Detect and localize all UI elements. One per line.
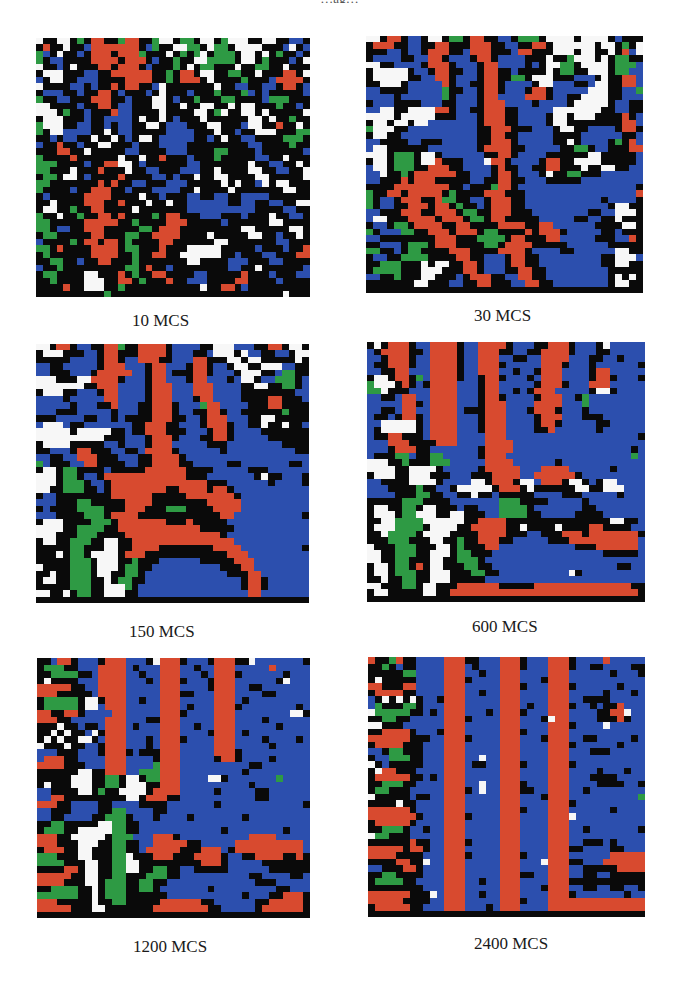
lattice-cell	[401, 287, 408, 293]
lattice-cell	[235, 912, 242, 919]
lattice-cell	[485, 596, 492, 603]
lattice-cell	[471, 596, 478, 603]
lattice-cell	[145, 597, 152, 603]
lattice-cell	[408, 287, 415, 293]
lattice-cell	[112, 912, 119, 919]
lattice-cell	[125, 291, 132, 297]
lattice-cell	[387, 287, 394, 293]
lattice-cell	[581, 287, 588, 293]
lattice-cell	[37, 912, 44, 919]
lattice-cell	[472, 911, 479, 918]
lattice-cell	[534, 596, 541, 603]
lattice-cell	[207, 291, 214, 297]
lattice-cell	[638, 596, 645, 603]
lattice-grid	[37, 658, 310, 918]
lattice-cell	[92, 912, 99, 919]
lattice-cell	[638, 911, 645, 918]
lattice-cell	[416, 596, 423, 603]
lattice-cell	[139, 912, 146, 919]
lattice-cell	[583, 911, 590, 918]
lattice-cell	[477, 287, 484, 293]
lattice-cell	[491, 287, 498, 293]
lattice-cell	[569, 911, 576, 918]
lattice-cell	[562, 911, 569, 918]
lattice-cell	[254, 597, 261, 603]
lattice-cell	[527, 911, 534, 918]
lattice-cell	[303, 912, 310, 919]
lattice-cell	[520, 911, 527, 918]
lattice-cell	[500, 911, 507, 918]
panel-label: 30 MCS	[474, 306, 531, 326]
lattice-cell	[71, 912, 78, 919]
lattice-cell	[50, 597, 57, 603]
lattice-cell	[138, 597, 145, 603]
lattice-cell	[228, 291, 235, 297]
lattice-cell	[276, 291, 283, 297]
figure-top-caption: …ag…	[0, 0, 679, 3]
lattice-cell	[603, 596, 610, 603]
lattice-cell	[603, 911, 610, 918]
lattice-cell	[104, 597, 111, 603]
lattice-cell	[367, 596, 374, 603]
lattice-cell	[235, 291, 242, 297]
lattice-cell	[98, 912, 105, 919]
lattice-cell	[373, 287, 380, 293]
lattice-cell	[269, 912, 276, 919]
panel-label: 150 MCS	[129, 622, 195, 642]
lattice-grid	[368, 657, 645, 917]
lattice-cell	[186, 597, 193, 603]
lattice-cell	[57, 912, 64, 919]
lattice-cell	[368, 911, 375, 918]
lattice-cell	[111, 291, 118, 297]
lattice-cell	[507, 911, 514, 918]
lattice-cell	[437, 911, 444, 918]
lattice-cell	[153, 912, 160, 919]
lattice-cell	[201, 912, 208, 919]
lattice-cell	[421, 287, 428, 293]
lattice-cell	[166, 597, 173, 603]
lattice-cell	[451, 911, 458, 918]
lattice-cell	[366, 287, 373, 293]
lattice-cell	[242, 912, 249, 919]
lattice-cell	[296, 912, 303, 919]
lattice-cell	[133, 912, 140, 919]
lattice-cell	[282, 597, 289, 603]
lattice-cell	[98, 291, 105, 297]
lattice-cell	[118, 291, 125, 297]
lattice-cell	[43, 597, 50, 603]
lattice-cell	[560, 287, 567, 293]
lattice-cell	[187, 291, 194, 297]
lattice-cell	[610, 911, 617, 918]
lattice-cell	[228, 912, 235, 919]
lattice-cell	[187, 912, 194, 919]
lattice-cell	[132, 597, 139, 603]
lattice-cell	[296, 291, 303, 297]
lattice-cell	[119, 912, 126, 919]
lattice-cell	[428, 287, 435, 293]
lattice-cell	[91, 291, 98, 297]
lattice-cell	[534, 911, 541, 918]
lattice-cell	[505, 287, 512, 293]
lattice-cell	[449, 287, 456, 293]
lattice-cell	[85, 912, 92, 919]
lattice-cell	[389, 911, 396, 918]
lattice-cell	[541, 911, 548, 918]
lattice-cell	[57, 291, 64, 297]
lattice-cell	[610, 596, 617, 603]
lattice-cell	[146, 912, 153, 919]
panel-label: 1200 MCS	[133, 937, 207, 957]
lattice-cell	[631, 596, 638, 603]
lattice-cell	[125, 597, 132, 603]
lattice-cell	[269, 291, 276, 297]
lattice-cell	[51, 912, 58, 919]
lattice-cell	[234, 597, 241, 603]
lattice-cell	[63, 291, 70, 297]
lattice-grid	[367, 342, 645, 602]
lattice-cell	[70, 597, 77, 603]
lattice-cell	[255, 912, 262, 919]
lattice-cell	[64, 912, 71, 919]
lattice-cell	[132, 291, 139, 297]
lattice-cell	[283, 912, 290, 919]
lattice-cell	[180, 912, 187, 919]
lattice-cell	[214, 912, 221, 919]
